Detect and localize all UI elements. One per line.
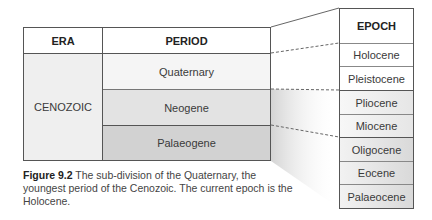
epoch-miocene: Miocene: [340, 115, 413, 138]
epoch-table: EPOCH Holocene Pleistocene Pliocene Mioc…: [339, 8, 414, 209]
epoch-pleistocene: Pleistocene: [340, 67, 413, 91]
epoch-holocene: Holocene: [340, 44, 413, 67]
era-period-table: ERA PERIOD CENOZOIC Quaternary Neogene P…: [23, 27, 271, 161]
period-quaternary: Quaternary: [103, 54, 270, 90]
period-neogene: Neogene: [103, 90, 270, 126]
period-palaeogene: Palaeogene: [103, 126, 270, 160]
epoch-pliocene: Pliocene: [340, 91, 413, 115]
epoch-eocene: Eocene: [340, 162, 413, 185]
epoch-oligocene: Oligocene: [340, 138, 413, 162]
period-header: PERIOD: [103, 28, 270, 54]
figure-label: Figure 9.2: [23, 169, 73, 181]
era-header: ERA: [24, 28, 103, 54]
figure-caption: Figure 9.2 The sub-division of the Quate…: [23, 169, 293, 208]
era-cenozoic: CENOZOIC: [24, 54, 103, 160]
epoch-header: EPOCH: [340, 9, 413, 44]
epoch-palaeocene: Palaeocene: [340, 185, 413, 208]
